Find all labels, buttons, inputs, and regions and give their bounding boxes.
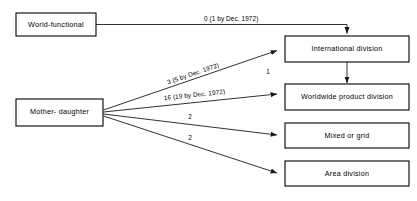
edge-md-to-mixed-or-grid: 2 bbox=[104, 113, 278, 136]
edge-md-to-international: 3 (5 by Dec. 1972) bbox=[104, 51, 278, 111]
node-area-division[interactable]: Area division bbox=[285, 161, 409, 186]
edge-label-international-to-worldwide-product: 1 bbox=[266, 68, 270, 75]
edge-label-wf-to-international: 0 (1 by Dec. 1972) bbox=[204, 15, 258, 23]
edge-md-to-worldwide-product: 16 (19 by Dec. 1972) bbox=[104, 88, 278, 112]
edge-label-md-to-area-division: 2 bbox=[188, 134, 192, 141]
node-international-division[interactable]: International division bbox=[285, 36, 409, 62]
edge-label-md-to-mixed-or-grid: 2 bbox=[188, 113, 192, 120]
node-world-functional-label: World-functional bbox=[28, 20, 84, 29]
node-mixed-or-grid-label: Mixed or grid bbox=[325, 131, 370, 140]
edge-wf-to-international: 0 (1 by Dec. 1972) bbox=[96, 15, 347, 34]
node-worldwide-product-division-label: Worldwide product division bbox=[301, 92, 393, 101]
node-mixed-or-grid[interactable]: Mixed or grid bbox=[285, 123, 409, 148]
node-worldwide-product-division[interactable]: Worldwide product division bbox=[285, 84, 409, 110]
diagram-container: 0 (1 by Dec. 1972) 3 (5 by Dec. 1972) 16… bbox=[0, 0, 417, 201]
node-area-division-label: Area division bbox=[325, 169, 369, 178]
node-international-division-label: International division bbox=[311, 44, 382, 53]
node-world-functional[interactable]: World-functional bbox=[16, 13, 96, 36]
node-mother-daughter[interactable]: Mother- daughter bbox=[16, 99, 103, 126]
edge-label-md-to-international: 3 (5 by Dec. 1972) bbox=[166, 61, 220, 86]
diagram-canvas: 0 (1 by Dec. 1972) 3 (5 by Dec. 1972) 16… bbox=[0, 0, 417, 201]
edge-international-to-worldwide-product: 1 bbox=[266, 62, 347, 83]
node-mother-daughter-label: Mother- daughter bbox=[30, 107, 89, 116]
